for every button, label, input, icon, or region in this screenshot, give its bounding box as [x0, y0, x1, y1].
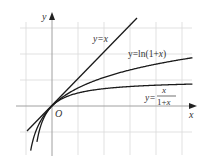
- x-axis-label: x: [188, 109, 194, 120]
- origin-label: O: [55, 108, 62, 119]
- log-prefix: y=ln(1+: [128, 49, 159, 60]
- rat-denominator: 1+x: [157, 97, 171, 107]
- y-axis-arrow-icon: [49, 12, 55, 20]
- function-graph: y x O y=x y=ln(1+x) y= x 1+x: [0, 0, 205, 163]
- label-y-x-over-1-plus-x: y= x 1+x: [144, 85, 176, 107]
- label-y-ln-1-plus-x: y=ln(1+x): [128, 49, 166, 60]
- rat-numerator: x: [161, 85, 166, 95]
- log-suffix: ): [163, 49, 166, 60]
- rat-prefix: y=: [144, 93, 156, 103]
- y-axis-label: y: [41, 11, 47, 22]
- label-y-equals-x: y=x: [92, 34, 109, 44]
- curve-y-equals-x: [27, 18, 137, 131]
